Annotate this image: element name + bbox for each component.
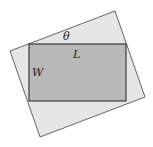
diagram-container: θ L W [0,0,153,147]
length-label: L [72,48,80,61]
width-label: W [32,66,45,79]
theta-label: θ [63,30,70,43]
inscribed-rectangle-diagram: θ L W [0,0,153,147]
